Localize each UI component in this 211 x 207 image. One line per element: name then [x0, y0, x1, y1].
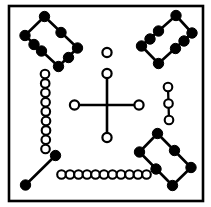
chain-open-node [91, 170, 100, 179]
chain-open-node [108, 170, 117, 179]
filled-node [134, 147, 144, 157]
cluster-left-vertical-chain [41, 70, 51, 154]
filled-node [136, 41, 146, 51]
isolated-open-node [102, 48, 111, 57]
chain-open-node [42, 126, 51, 135]
filled-node [186, 162, 196, 172]
chain-open-node [125, 170, 134, 179]
cross-endpoint-open-node [102, 69, 111, 78]
filled-node [171, 10, 181, 20]
cross-endpoint-open-node [102, 133, 111, 142]
node-cluster-diagram [0, 0, 211, 207]
chain-open-node [74, 170, 83, 179]
filled-node [169, 145, 179, 155]
chain-open-node [42, 107, 51, 116]
filled-node [20, 30, 30, 40]
filled-node [39, 11, 49, 21]
filled-node [29, 39, 39, 49]
chain-open-node [66, 170, 75, 179]
chain-open-node [164, 83, 173, 92]
filled-node [63, 52, 73, 62]
filled-node [20, 180, 30, 190]
filled-node [72, 43, 82, 53]
filled-node [179, 36, 189, 46]
filled-node [151, 164, 161, 174]
chain-open-node [42, 136, 51, 145]
chain-open-node [41, 79, 50, 88]
filled-node [152, 128, 162, 138]
cross-endpoint-open-node [70, 100, 79, 109]
chain-open-node [134, 170, 143, 179]
chain-open-node [41, 98, 50, 107]
filled-node [50, 150, 60, 160]
chain-open-node [100, 170, 109, 179]
chain-open-node [57, 170, 66, 179]
chain-open-node [117, 170, 126, 179]
chain-open-node [83, 170, 92, 179]
filled-node [167, 180, 177, 190]
cluster-center-top-isolated-node [102, 48, 111, 57]
diagram-canvas [0, 0, 211, 207]
chain-open-node [41, 145, 50, 154]
chain-open-node [41, 70, 50, 79]
chain-open-node [164, 99, 173, 108]
filled-node [145, 34, 155, 44]
filled-node [153, 26, 163, 36]
chain-open-node [42, 117, 51, 126]
cluster-right-vertical-chain [164, 83, 174, 125]
filled-node [170, 43, 180, 53]
cluster-bottom-horizontal-chain [57, 170, 151, 179]
filled-node [56, 27, 66, 37]
filled-node [53, 61, 63, 71]
chain-open-node [142, 170, 151, 179]
chain-open-node [41, 89, 50, 98]
filled-node [187, 28, 197, 38]
filled-node [153, 58, 163, 68]
chain-open-node [165, 116, 174, 125]
cross-endpoint-open-node [134, 100, 143, 109]
